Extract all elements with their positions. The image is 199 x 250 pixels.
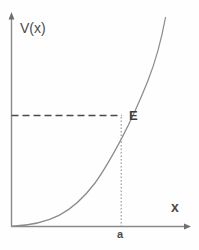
- plot-canvas: [0, 0, 199, 250]
- potential-energy-figure: V(x) x E a: [0, 0, 199, 250]
- y-axis-label: V(x): [20, 21, 46, 35]
- energy-point-label: E: [129, 109, 138, 122]
- y-axis: [9, 12, 15, 227]
- potential-curve: [13, 18, 166, 227]
- x-axis: [11, 223, 191, 229]
- turning-point-tick-label: a: [117, 229, 123, 240]
- x-axis-label: x: [171, 200, 179, 214]
- y-axis-arrowhead-icon: [9, 12, 15, 20]
- x-axis-arrowhead-icon: [184, 223, 191, 229]
